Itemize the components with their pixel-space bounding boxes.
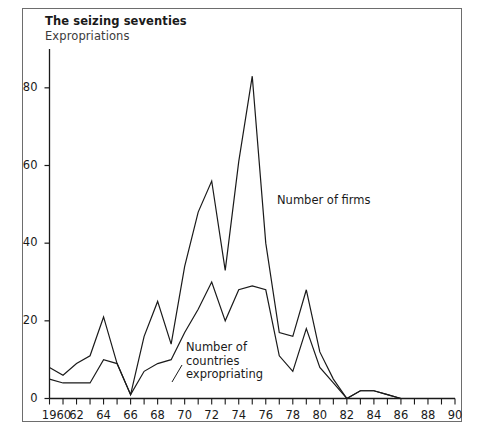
countries-leader-line	[172, 365, 182, 382]
x-tick-label: 72	[201, 408, 223, 422]
x-tick-label: 88	[417, 408, 439, 422]
x-tick-label: 82	[336, 408, 358, 422]
y-axis-ticks	[45, 88, 50, 399]
x-tick-label: 62	[66, 408, 88, 422]
x-tick-label: 80	[309, 408, 331, 422]
y-tick-label: 60	[12, 158, 38, 172]
y-tick-label: 20	[12, 313, 38, 327]
x-tick-label: 66	[120, 408, 142, 422]
x-tick-label: 86	[390, 408, 412, 422]
countries-annotation: Number ofcountriesexpropriating	[186, 341, 263, 382]
annotation-line: expropriating	[186, 368, 263, 382]
x-tick-label: 68	[147, 408, 169, 422]
x-tick-label: 90	[444, 408, 466, 422]
y-tick-label: 40	[12, 235, 38, 249]
chart-page: The seizing seventies Expropriations 020…	[0, 0, 485, 433]
x-tick-label: 70	[174, 408, 196, 422]
x-axis-ticks	[50, 399, 456, 405]
annotation-line: Number of firms	[277, 194, 371, 208]
firms-annotation: Number of firms	[277, 194, 371, 208]
x-tick-label: 84	[363, 408, 385, 422]
x-tick-label: 76	[255, 408, 277, 422]
y-tick-label: 0	[12, 391, 38, 405]
annotation-line: Number of	[186, 341, 263, 355]
x-tick-label: 74	[228, 408, 250, 422]
annotation-line: countries	[186, 355, 263, 369]
x-tick-label: 78	[282, 408, 304, 422]
y-tick-label: 80	[12, 80, 38, 94]
annotation-leader-lines	[172, 365, 182, 382]
x-tick-label: 64	[93, 408, 115, 422]
